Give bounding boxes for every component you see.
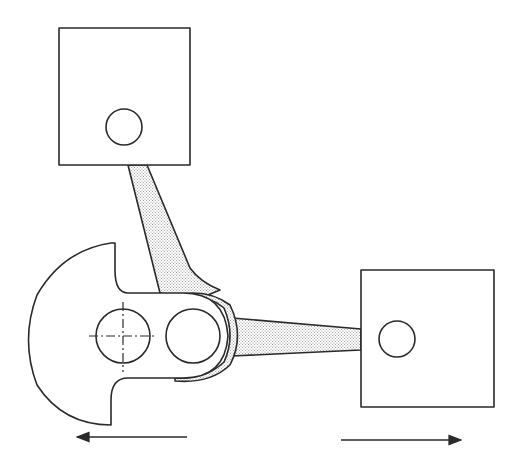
crank-mechanism-diagram xyxy=(0,0,527,471)
crank-body xyxy=(29,243,229,425)
lower-connecting-rod xyxy=(232,318,361,356)
upper-connecting-rod xyxy=(128,165,220,300)
right-slider-block xyxy=(361,270,494,407)
